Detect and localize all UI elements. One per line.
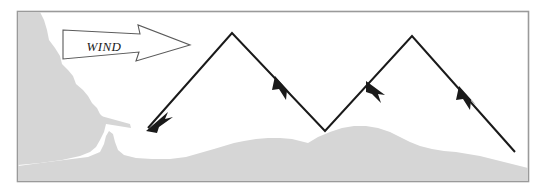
wind-label: WIND [87, 39, 122, 54]
figure-root: WIND [0, 0, 546, 195]
sailing-diagram: WIND [0, 0, 546, 195]
